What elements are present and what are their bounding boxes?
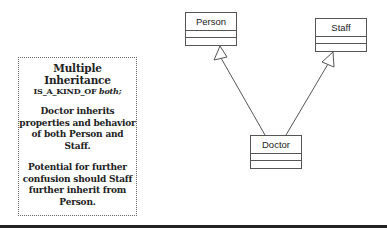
- class-staff[interactable]: Staff: [315, 18, 367, 52]
- diagram-canvas: Multiple Inheritance IS_A_KIND_OF both; …: [0, 0, 387, 231]
- class-attributes-compartment: [186, 31, 236, 38]
- class-attributes-compartment: [316, 37, 366, 44]
- edge-doctor-staff: [286, 64, 328, 135]
- class-doctor[interactable]: Doctor: [250, 135, 302, 169]
- hollow-arrowhead-icon: [322, 52, 334, 67]
- class-operations-compartment: [186, 38, 236, 46]
- hollow-arrowhead-icon: [214, 46, 227, 60]
- bottom-rule-divider: [0, 225, 387, 228]
- class-name: Person: [186, 13, 236, 31]
- class-name: Doctor: [251, 136, 301, 154]
- class-operations-compartment: [251, 161, 301, 169]
- class-attributes-compartment: [251, 154, 301, 161]
- class-operations-compartment: [316, 44, 366, 52]
- class-person[interactable]: Person: [185, 12, 237, 46]
- class-name: Staff: [316, 19, 366, 37]
- edge-doctor-person: [221, 58, 265, 135]
